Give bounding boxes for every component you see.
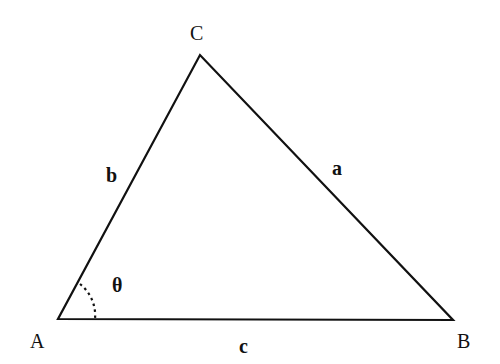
vertex-label-c: C [190, 22, 203, 44]
side-label-b: b [106, 164, 117, 186]
vertex-label-a: A [30, 330, 45, 352]
vertex-label-b: B [457, 330, 470, 352]
angle-label-theta: θ [112, 274, 122, 296]
side-label-c: c [239, 335, 248, 357]
triangle-diagram: A B C a b c θ [0, 0, 500, 364]
side-label-a: a [332, 157, 342, 179]
angle-arc-theta [80, 284, 95, 319]
